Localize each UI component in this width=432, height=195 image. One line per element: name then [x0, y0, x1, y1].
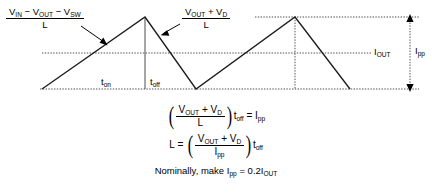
eq2-numerator: VOUT + VD: [195, 134, 244, 146]
eq3-equals: = 0.2I: [237, 165, 264, 176]
minus-1: −: [22, 6, 33, 17]
vin-subscript: IN: [15, 11, 22, 18]
eq1-result: Ipp: [255, 111, 265, 121]
rising-slope-fraction: VIN − VOUT − VSW L: [6, 7, 84, 29]
vsw-subscript: SW: [70, 11, 81, 18]
figure-canvas: VIN − VOUT − VSW L VOUT + VD L ton toff …: [0, 0, 432, 195]
eq3-prefix: Nominally, make I: [155, 165, 230, 176]
ipp-arrow-head-down: [406, 84, 413, 92]
eq1-numerator: VOUT + VD: [176, 105, 225, 117]
eq2-equals-wrap: =: [175, 140, 186, 150]
ton-subscript: on: [104, 81, 111, 88]
minus-2: −: [53, 6, 64, 17]
eq1-denominator: L: [176, 117, 225, 128]
vd-subscript: D: [222, 11, 227, 18]
eq2-toff-subscript: off: [256, 144, 263, 151]
falling-slope-expression: VOUT + VD L: [182, 7, 230, 29]
eq2-denominator: Ipp: [195, 146, 244, 157]
eq1-toff-subscript: off: [236, 115, 243, 122]
eq2-open-paren: (: [188, 133, 193, 158]
ipp-arrow-head-up: [406, 14, 413, 22]
toff-label: toff: [150, 77, 160, 87]
ton-label: ton: [101, 77, 111, 87]
eq2-plus: +: [218, 133, 229, 144]
eq3-suffix-subscript: OUT: [263, 170, 277, 177]
equation-3-nominal-note: Nominally, make Ipp = 0.2IOUT: [0, 166, 432, 176]
eq3-prefix-subscript: pp: [229, 170, 236, 177]
plus-1: +: [205, 6, 216, 17]
eq1-equals-wrap: =: [244, 111, 255, 121]
falling-slope-numerator: VOUT + VD: [182, 7, 230, 19]
eq2-den-subscript: pp: [217, 151, 224, 158]
eq2-toff: toff: [253, 140, 263, 150]
eq2-equals: =: [177, 139, 183, 150]
rising-slope-numerator: VIN − VOUT − VSW: [6, 7, 84, 19]
rise-slope-arrow-head: [100, 38, 108, 46]
eq2-sub-out: OUT: [204, 138, 218, 145]
eq2-fraction: VOUT + VD Ipp: [195, 134, 244, 157]
equation-1: ( VOUT + VD L ) toff = Ipp: [0, 104, 432, 129]
eq1-sub-d: D: [217, 109, 222, 116]
eq1-close-paren: ): [227, 104, 232, 129]
eq1-toff: toff: [234, 111, 244, 121]
rising-slope-expression: VIN − VOUT − VSW L: [6, 7, 84, 29]
eq2-sub-d: D: [236, 138, 241, 145]
equation-2: L = ( VOUT + VD Ipp ) toff: [0, 133, 432, 158]
eq1-sub-out: OUT: [185, 109, 199, 116]
ipp-subscript: pp: [418, 50, 425, 57]
rise-slope-leader-line: [81, 26, 104, 42]
ipp-label: Ipp: [415, 46, 425, 56]
iout-subscript: OUT: [377, 51, 391, 58]
falling-slope-fraction: VOUT + VD L: [182, 7, 230, 29]
iout-label: IOUT: [374, 47, 391, 57]
eq1-result-subscript: pp: [258, 115, 265, 122]
eq1-equals: =: [246, 110, 252, 121]
eq1-plus: +: [199, 104, 210, 115]
rising-slope-denominator: L: [6, 19, 84, 30]
toff-subscript: off: [153, 81, 160, 88]
vout-subscript: OUT: [39, 11, 53, 18]
eq1-fraction: VOUT + VD L: [176, 105, 225, 128]
vout-subscript-2: OUT: [191, 11, 205, 18]
eq2-close-paren: ): [246, 133, 251, 158]
falling-slope-denominator: L: [182, 19, 230, 30]
eq1-open-paren: (: [168, 104, 173, 129]
